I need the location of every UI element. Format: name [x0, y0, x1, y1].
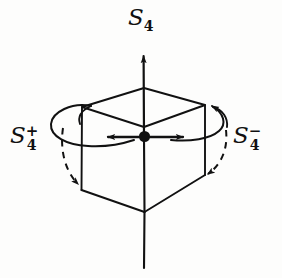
rotation-label-s4-plus-indices: +4 [26, 127, 37, 151]
rotation-label-s4-minus-subscript: 4 [250, 138, 260, 152]
rotation-label-s4-minus: S−4 [233, 124, 260, 151]
counterclockwise-rotation-arrow [51, 105, 134, 184]
rotation-label-s4-plus: S+4 [10, 124, 37, 151]
s4-symmetry-figure: S4 S+4 S−4 [0, 0, 282, 278]
rotation-label-s4-minus-base: S [233, 122, 249, 148]
left-rotation-dashed-arc [62, 128, 78, 184]
rotation-label-s4-minus-indices: −4 [249, 127, 260, 151]
rotation-label-s4-plus-subscript: 4 [27, 138, 37, 152]
clockwise-rotation-arrow [171, 106, 227, 174]
axis-lower-segment [144, 212, 145, 268]
axis-interior-segment [144, 137, 145, 212]
axis-label-s4-base: S [128, 4, 144, 30]
right-rotation-solid-arc [171, 106, 223, 141]
center-dot [139, 131, 150, 142]
cube-edge-bottom-right [145, 175, 206, 212]
right-rotation-hook [213, 107, 227, 127]
rotation-label-s4-plus-base: S [10, 122, 26, 148]
axis-label-s4: S4 [128, 6, 154, 29]
axis-label-s4-subscript: 4 [144, 18, 154, 34]
cube-edge-bottom-left [82, 190, 145, 212]
cube-edge-left-vertical [82, 107, 83, 190]
